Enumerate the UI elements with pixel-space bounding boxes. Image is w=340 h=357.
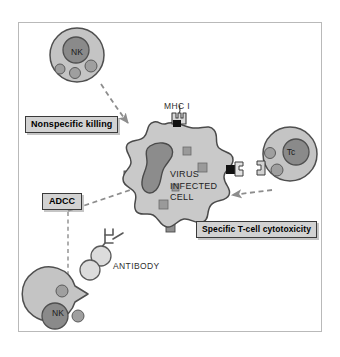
granule-icon bbox=[55, 64, 65, 74]
nk-cell-nucleus bbox=[63, 37, 89, 63]
tc-cell bbox=[257, 127, 317, 181]
label-specific-t-cell-cytotoxicity: Specific T-cell cytotoxicity bbox=[196, 221, 317, 238]
nk-cell-bottom bbox=[22, 267, 88, 329]
label-mhc-class-i: MHC I bbox=[164, 101, 190, 111]
fc-receptor-icon bbox=[80, 260, 100, 280]
viral-antigen-icon bbox=[159, 200, 168, 209]
cell-name-line: VIRUS bbox=[170, 169, 217, 181]
granule-icon bbox=[70, 68, 81, 79]
cell-name-line: INFECTED bbox=[170, 181, 217, 193]
granule-icon bbox=[271, 164, 283, 176]
cell-name-line: CELL bbox=[170, 192, 217, 204]
granule-icon bbox=[85, 60, 97, 72]
t-cell-receptor-icon bbox=[257, 161, 265, 175]
viral-antigen-icon bbox=[183, 147, 191, 155]
granule-icon bbox=[265, 148, 276, 159]
granule-icon bbox=[72, 310, 84, 322]
figure-canvas: Nonspecific killing ADCC Specific T-cell… bbox=[0, 0, 340, 357]
nk-cell-top bbox=[50, 28, 104, 82]
arrow-tc-to-cell bbox=[232, 190, 272, 195]
label-nonspecific-killing: Nonspecific killing bbox=[25, 116, 118, 133]
label-adcc: ADCC bbox=[42, 193, 82, 210]
label-antibody: ANTIBODY bbox=[113, 261, 160, 271]
nk-cell-nucleus bbox=[42, 303, 68, 329]
antibody-icon bbox=[80, 229, 123, 280]
label-virus-infected-cell: VIRUS INFECTED CELL bbox=[170, 169, 217, 204]
tc-cell-nucleus bbox=[283, 139, 309, 165]
granule-icon bbox=[56, 285, 68, 297]
